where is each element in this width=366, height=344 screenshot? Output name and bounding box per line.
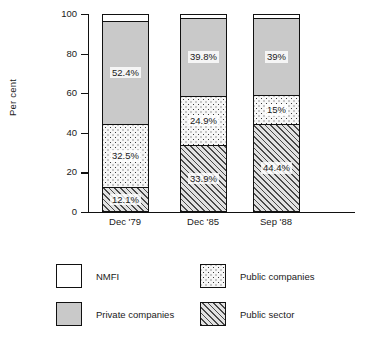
segment-public-sector-dec-79[interactable]: 12.1% <box>103 187 148 211</box>
segment-label <box>202 15 206 17</box>
legend-item-public-sector[interactable]: Public sector <box>200 302 294 326</box>
x-tick-label-sep-88: Sep '88 <box>231 216 321 227</box>
bar-dec-79[interactable]: 52.4% 32.5% 12.1% <box>102 14 149 212</box>
legend-item-private-companies[interactable]: Private companies <box>56 302 174 326</box>
segment-label <box>275 16 279 18</box>
bars-layer: 52.4% 32.5% 12.1% 39.8% 24.9% <box>0 14 366 212</box>
segment-public-sector-sep-88[interactable]: 44.4% <box>254 124 299 211</box>
segment-public-sector-dec-85[interactable]: 33.9% <box>181 145 226 211</box>
bar-dec-85[interactable]: 39.8% 24.9% 33.9% <box>180 14 227 212</box>
x-axis-line <box>88 212 355 213</box>
segment-label: 12.1% <box>110 194 141 206</box>
legend-swatch-nmfi <box>56 264 82 288</box>
segment-label: 39.8% <box>188 51 219 63</box>
segment-public-companies-dec-79[interactable]: 32.5% <box>103 124 148 188</box>
segment-label: 24.9% <box>188 115 219 127</box>
legend-item-public-companies[interactable]: Public companies <box>200 264 314 288</box>
y-tick-mark-0 <box>81 212 88 213</box>
segment-label: 32.5% <box>110 150 141 162</box>
legend-label-public-companies: Public companies <box>240 271 314 282</box>
chart-legend: NMFI Private companies Public companies … <box>0 258 366 344</box>
legend-label-public-sector: Public sector <box>240 309 294 320</box>
segment-public-companies-sep-88[interactable]: 15% <box>254 95 299 124</box>
x-tick-label-dec-79: Dec '79 <box>80 216 170 227</box>
segment-private-companies-sep-88[interactable]: 39% <box>254 18 299 94</box>
legend-swatch-public-sector <box>200 302 226 326</box>
segment-label: 33.9% <box>188 173 219 185</box>
segment-label <box>124 17 128 19</box>
legend-label-private-companies: Private companies <box>96 309 174 320</box>
segment-label: 39% <box>265 51 288 63</box>
segment-private-companies-dec-85[interactable]: 39.8% <box>181 18 226 96</box>
segment-public-companies-dec-85[interactable]: 24.9% <box>181 96 226 145</box>
stacked-bar-chart: Per cent 100 80 60 40 20 0 52.4% <box>0 0 366 344</box>
segment-label: 15% <box>265 104 288 116</box>
plot-area: Per cent 100 80 60 40 20 0 52.4% <box>0 0 366 240</box>
legend-label-nmfi: NMFI <box>96 271 119 282</box>
segment-private-companies-dec-79[interactable]: 52.4% <box>103 21 148 124</box>
legend-item-nmfi[interactable]: NMFI <box>56 264 119 288</box>
legend-swatch-private-companies <box>56 302 82 326</box>
legend-swatch-public-companies <box>200 264 226 288</box>
segment-label: 44.4% <box>261 162 292 174</box>
segment-label: 52.4% <box>110 67 141 79</box>
bar-sep-88[interactable]: 39% 15% 44.4% <box>253 14 300 212</box>
